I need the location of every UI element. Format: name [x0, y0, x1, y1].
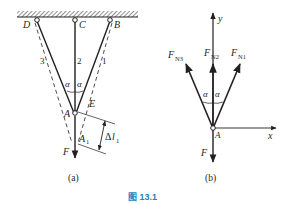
node-A — [73, 111, 78, 116]
label-alpha-left: α — [65, 79, 70, 89]
angle-arc-left-b — [203, 102, 213, 103]
label-FN2-sub: N2 — [211, 53, 219, 60]
label-delta-sub: 1 — [116, 137, 119, 144]
label-FN2: F — [203, 47, 211, 58]
label-rod-3: 3 — [40, 56, 45, 66]
label-A: A — [63, 108, 71, 119]
label-delta-l: l — [112, 131, 115, 142]
label-A-b: A — [214, 130, 221, 140]
panel-b-sublabel: (b) — [205, 173, 216, 184]
panel-b: y x F N3 F N2 F N1 α α F A (b) — [167, 13, 276, 184]
label-alpha-right-b: α — [215, 89, 220, 99]
ceiling-hatch — [17, 11, 138, 17]
label-C: C — [79, 19, 86, 30]
label-FN1-sub: N1 — [238, 53, 246, 60]
label-alpha-right: α — [77, 79, 82, 89]
label-FN3-sub: N3 — [175, 55, 183, 62]
extension-line-E — [78, 112, 115, 124]
label-x: x — [267, 130, 273, 141]
figure-caption: 图 13.1 — [128, 192, 157, 202]
label-D: D — [22, 19, 31, 30]
label-B: B — [114, 19, 120, 30]
dashed-line-rod1-outer — [78, 23, 112, 143]
label-A1: A — [78, 133, 86, 144]
label-rod-1: 1 — [102, 56, 107, 66]
force-FN3-arrow — [186, 64, 212, 126]
figure-13-1: D C B 3 2 1 α α A F E A 1 Δ l 1 (a) y — [0, 0, 292, 204]
angle-arc-right — [75, 91, 83, 92]
angle-arc-left — [67, 91, 75, 92]
angle-arc-right-b — [213, 102, 223, 103]
extension-line-A1 — [78, 144, 106, 154]
label-F: F — [62, 146, 70, 157]
label-rod-2: 2 — [77, 56, 82, 66]
label-FN1: F — [230, 47, 238, 58]
label-y: y — [217, 13, 223, 24]
pin-D — [35, 18, 40, 23]
label-FN3: F — [167, 49, 175, 60]
pin-B — [108, 18, 113, 23]
label-A1-sub: 1 — [86, 138, 89, 145]
label-F-b: F — [200, 147, 208, 158]
pin-C — [73, 18, 78, 23]
label-alpha-left-b: α — [203, 89, 208, 99]
panel-a-sublabel: (a) — [68, 173, 79, 184]
panel-a: D C B 3 2 1 α α A F E A 1 Δ l 1 (a) — [17, 11, 138, 184]
label-E: E — [88, 98, 95, 109]
label-delta: Δ — [105, 131, 112, 142]
rod-3 — [37, 21, 74, 113]
